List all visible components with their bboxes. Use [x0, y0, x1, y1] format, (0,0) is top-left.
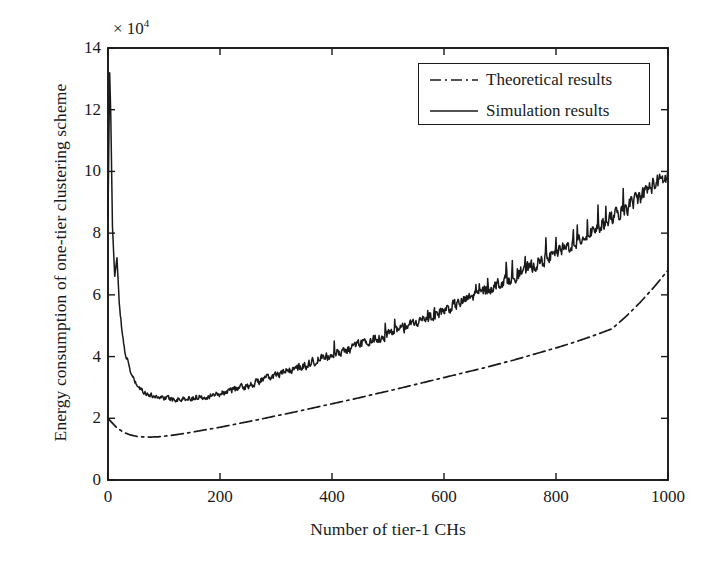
chart-figure: Energy consumption of one-tier clusterin…: [0, 0, 721, 563]
legend-label-simulation: Simulation results: [486, 101, 609, 121]
legend-box: Theoretical results Simulation results: [418, 63, 650, 125]
legend-label-theoretical: Theoretical results: [486, 70, 612, 90]
legend-entry-theoretical[interactable]: Theoretical results: [419, 64, 651, 95]
legend-solid-svg: [428, 101, 480, 121]
legend-sample-solid-line: [428, 101, 480, 121]
legend-sample-dash-dot-line: [428, 70, 480, 90]
legend-dash-dot-svg: [428, 70, 480, 90]
legend-entry-simulation[interactable]: Simulation results: [419, 95, 651, 126]
